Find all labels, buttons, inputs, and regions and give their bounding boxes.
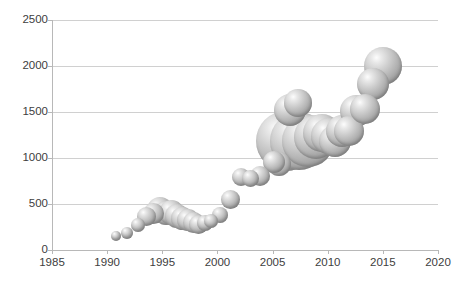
x-tick-2010	[328, 250, 329, 254]
y-axis-label: 0	[4, 244, 48, 255]
y-axis-labels: 05001000150020002500	[0, 0, 48, 286]
x-axis-label: 2010	[304, 256, 352, 269]
x-axis-label: 2015	[359, 256, 407, 269]
data-point-bubble	[221, 190, 240, 209]
gridline-1500	[52, 112, 438, 113]
y-tick-500	[48, 204, 52, 205]
data-point-bubble	[111, 231, 121, 241]
x-tick-1985	[52, 250, 53, 254]
gridline-500	[52, 204, 438, 205]
y-axis-label: 500	[4, 198, 48, 209]
y-axis-label: 1000	[4, 152, 48, 163]
x-tick-1990	[107, 250, 108, 254]
x-tick-2005	[273, 250, 274, 254]
gridline-1000	[52, 158, 438, 159]
y-tick-2000	[48, 66, 52, 67]
x-tick-2000	[217, 250, 218, 254]
x-axis-label: 2005	[249, 256, 297, 269]
y-tick-2500	[48, 20, 52, 21]
data-point-bubble	[350, 94, 380, 124]
x-axis-label: 2000	[193, 256, 241, 269]
x-tick-1995	[162, 250, 163, 254]
y-tick-1000	[48, 158, 52, 159]
x-tick-2015	[383, 250, 384, 254]
y-axis-label: 1500	[4, 106, 48, 117]
y-tick-1500	[48, 112, 52, 113]
x-axis-label: 1995	[138, 256, 186, 269]
data-point-bubble	[121, 227, 133, 239]
gridline-2500	[52, 20, 438, 21]
x-axis-label: 1990	[83, 256, 131, 269]
y-tick-0	[48, 250, 52, 251]
data-point-bubble	[284, 89, 312, 117]
x-axis-label: 1985	[28, 256, 76, 269]
x-axis-line	[52, 250, 438, 251]
data-point-bubble	[131, 218, 145, 232]
x-axis-label: 2020	[414, 256, 456, 269]
y-axis-line	[52, 20, 53, 251]
y-axis-label: 2000	[4, 60, 48, 71]
data-point-bubble	[204, 214, 218, 228]
data-point-bubble	[242, 170, 259, 187]
y-axis-label: 2500	[4, 14, 48, 25]
x-tick-2020	[438, 250, 439, 254]
